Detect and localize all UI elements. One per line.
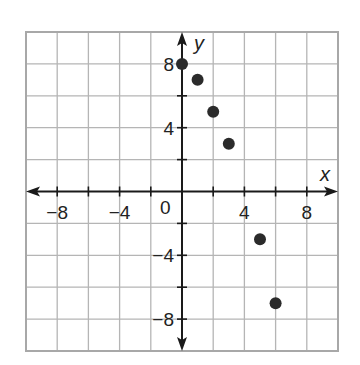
x-axis-label: x (319, 163, 331, 185)
x-tick-label: 4 (239, 202, 250, 223)
x-tick-label: 8 (302, 202, 313, 223)
y-tick-label: 4 (163, 118, 174, 139)
x-tick-label: −8 (46, 202, 68, 223)
data-point (270, 297, 282, 309)
axes (26, 32, 338, 351)
y-tick-label: −4 (152, 245, 174, 266)
y-axis-label: y (192, 32, 205, 54)
data-point (254, 233, 266, 245)
data-point (192, 74, 204, 86)
data-point (207, 106, 219, 118)
data-point (176, 58, 188, 70)
origin-label: 0 (160, 197, 171, 218)
data-point (223, 138, 235, 150)
y-tick-label: −8 (152, 309, 174, 330)
x-tick-label: −4 (109, 202, 131, 223)
coordinate-plane: −8−44884−4−8 x y 0 (0, 0, 360, 365)
y-tick-label: 8 (163, 54, 174, 75)
